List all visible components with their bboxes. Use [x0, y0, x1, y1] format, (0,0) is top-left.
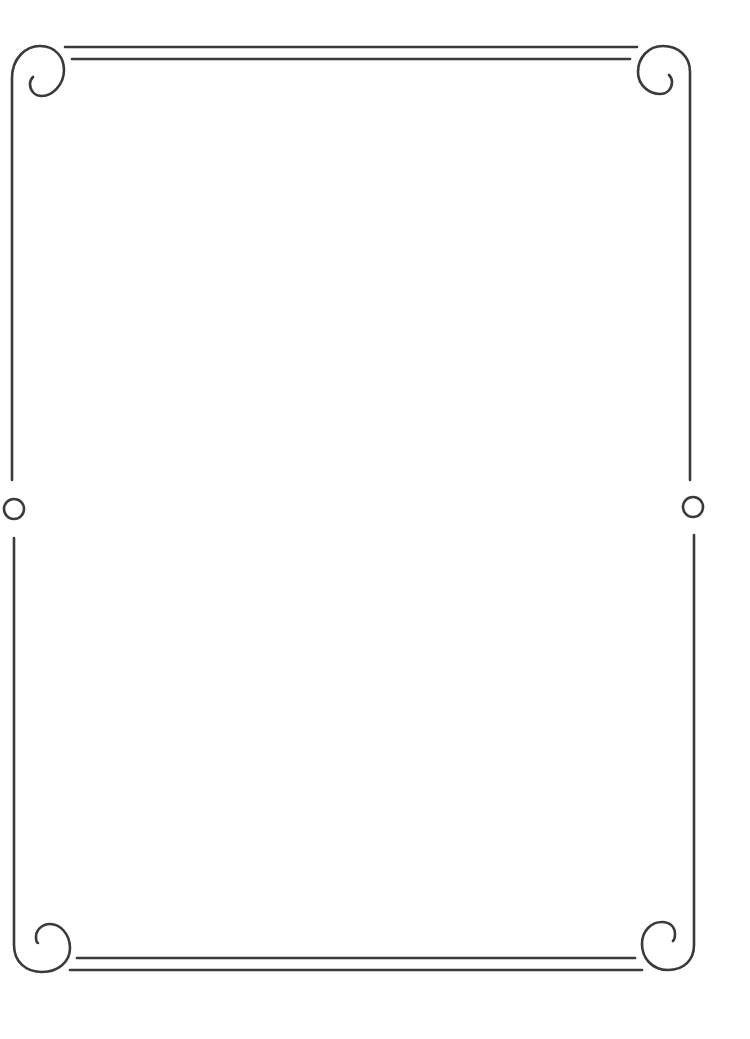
- decorative-frame: [0, 0, 750, 1039]
- circle-icon-left: [4, 499, 24, 519]
- circle-icon-right: [683, 497, 703, 517]
- frame-content-area: [40, 80, 670, 940]
